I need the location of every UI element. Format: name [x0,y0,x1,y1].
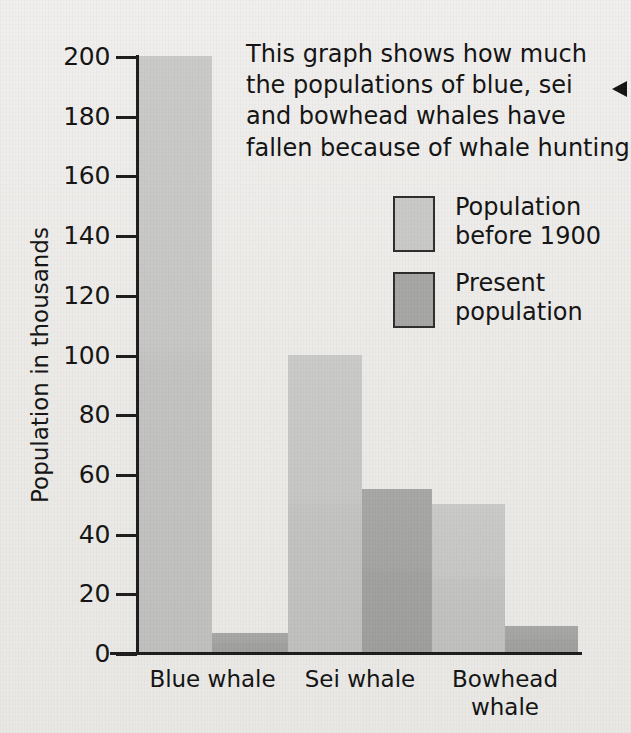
caption-line-2: the populations of blue, sei [246,70,606,101]
legend-swatch-before-1900 [393,196,435,252]
x-category-label-sei-whale-line-1: Sei whale [288,665,432,693]
bar-sei-whale-present [362,489,432,653]
y-tick-label-80: 80 [0,402,110,427]
chart-legend: Population before 1900 Present populatio… [393,193,623,345]
x-category-label-bowhead-whale-line-2: whale [432,693,578,721]
x-category-label-bowhead-whale: Bowhead whale [432,665,578,721]
y-axis-title: Population in thousands [27,155,53,575]
x-category-label-bowhead-whale-line-1: Bowhead [432,665,578,693]
caption-line-3: and bowhead whales have [246,101,606,132]
y-tick-label-100: 100 [0,343,110,368]
bar-bowhead-whale-before-1900 [432,504,505,653]
legend-label-present-line-2: population [455,298,583,327]
legend-label-before-1900: Population before 1900 [455,193,601,252]
legend-swatch-present [393,272,435,328]
legend-item-population-before-1900: Population before 1900 [393,193,623,252]
y-tick-label-20: 20 [0,581,110,606]
bar-sei-whale-before-1900 [288,355,362,653]
x-axis-line [110,652,582,655]
bar-bowhead-whale-present [505,626,578,653]
y-tick-label-60: 60 [0,462,110,487]
x-category-label-blue-whale: Blue whale [137,665,288,693]
y-tick-label-120: 120 [0,283,110,308]
legend-label-before-1900-line-2: before 1900 [455,222,601,251]
left-pointing-arrow-icon [612,81,627,97]
x-category-label-blue-whale-line-1: Blue whale [137,665,288,693]
bar-blue-whale-before-1900 [137,56,212,653]
y-tick-label-200: 200 [0,44,110,69]
legend-label-present: Present population [455,269,583,328]
chart-figure: 200 180 160 140 120 100 80 60 40 20 0 Po… [0,0,631,733]
legend-item-present-population: Present population [393,269,623,328]
caption-line-4: fallen because of whale hunting. [246,133,606,164]
y-tick-label-40: 40 [0,522,110,547]
y-tick-label-180: 180 [0,104,110,129]
caption-line-1: This graph shows how much [246,39,606,70]
x-category-label-sei-whale: Sei whale [288,665,432,693]
bar-blue-whale-present [212,633,288,653]
y-tick-label-0: 0 [0,641,110,666]
y-tick-label-140: 140 [0,223,110,248]
chart-caption: This graph shows how much the population… [246,39,606,164]
legend-label-before-1900-line-1: Population [455,193,601,222]
y-tick-label-160: 160 [0,163,110,188]
legend-label-present-line-1: Present [455,269,583,298]
